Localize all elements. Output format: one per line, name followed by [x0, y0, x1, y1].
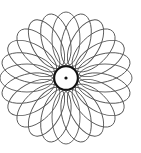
ellipse-petal	[78, 64, 132, 92]
ellipse-petal	[0, 64, 54, 92]
ellipse-petal	[52, 90, 80, 144]
spirograph-figure	[0, 0, 141, 153]
ellipse-petal	[52, 12, 80, 66]
center-dot	[64, 76, 67, 79]
